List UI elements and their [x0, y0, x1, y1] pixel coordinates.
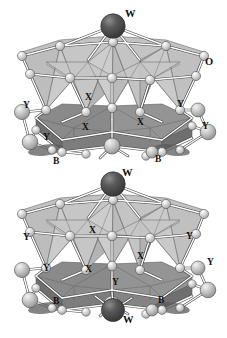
lower-structural-unit — [14, 172, 215, 318]
atom-label-x-upper-mid: X — [85, 93, 92, 103]
atom-label-b-upper-left: B — [53, 157, 59, 167]
atom-label-y-lower-left: Y — [23, 233, 30, 243]
atom-label-y-lower-right: Y — [186, 232, 193, 242]
atom-label-w-bottom: W — [123, 315, 134, 326]
atom-label-y-lower-right-2: Y — [207, 258, 214, 268]
atom-label-x-upper-left: X — [82, 123, 89, 133]
atom-label-o-right: O — [205, 57, 213, 68]
atom-label-y-upper-right: Y — [177, 100, 184, 110]
atom-label-y-lower-center: Y — [112, 278, 119, 288]
atom-label-x-upper-right: X — [137, 118, 144, 128]
atom-label-b-upper-right: B — [155, 155, 161, 165]
atom-label-x-lower-left: X — [85, 265, 92, 275]
crystal-structure-figure: WOYYXXXYYBBWYYXXXYYBBYW — [0, 0, 227, 338]
atom-label-y-upper-right-2: Y — [202, 122, 209, 132]
atom-label-w-top: W — [125, 9, 136, 20]
atom-label-w-middle: W — [122, 168, 133, 179]
atom-label-b-lower-left: B — [53, 297, 59, 307]
atom-label-x-lower-mid: X — [89, 226, 96, 236]
atom-label-b-lower-right: B — [158, 296, 164, 306]
atom-label-y-upper-left-2: Y — [43, 133, 50, 143]
atom-label-y-upper-left: Y — [23, 101, 30, 111]
atom-label-x-lower-right: X — [137, 252, 144, 262]
atom-label-y-lower-left-2: Y — [43, 264, 50, 274]
